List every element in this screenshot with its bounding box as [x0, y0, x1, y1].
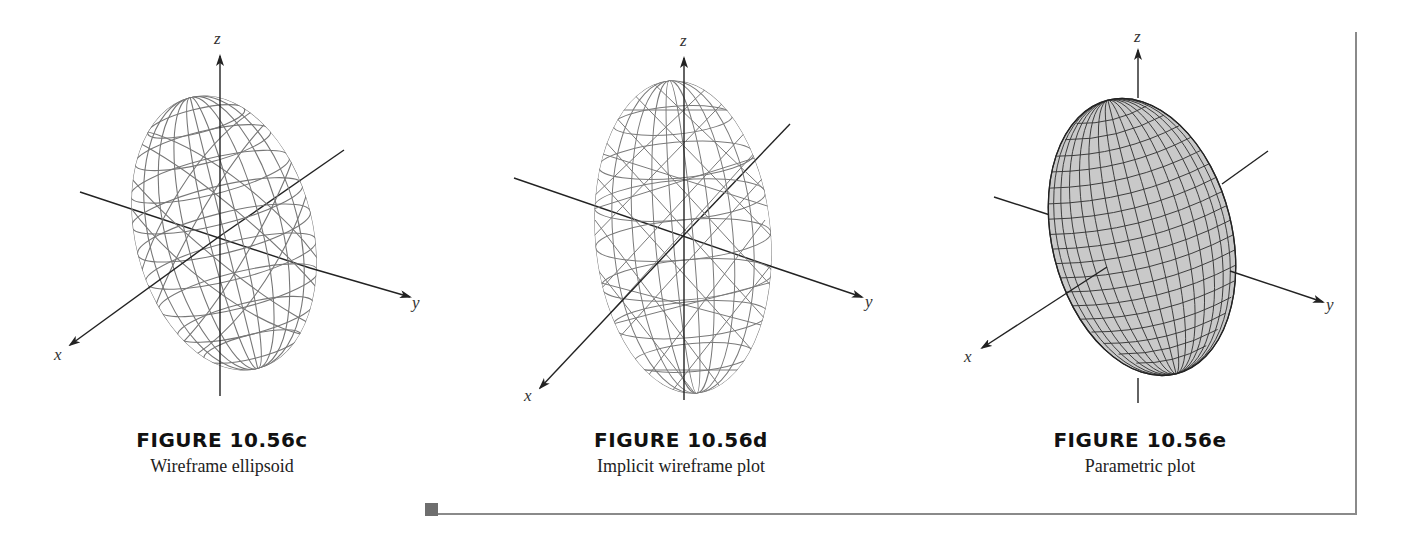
figure-c-number: FIGURE 10.56c	[72, 428, 372, 452]
figure-e-caption: FIGURE 10.56e Parametric plot	[990, 428, 1290, 477]
end-of-example-marker	[425, 503, 438, 516]
figure-c-plot: z y x	[53, 29, 420, 396]
figure-e-plot: z y x	[963, 27, 1334, 403]
figure-d-description: Implicit wireframe plot	[531, 456, 831, 477]
figure-c-caption: FIGURE 10.56c Wireframe ellipsoid	[72, 428, 372, 477]
figure-d-number: FIGURE 10.56d	[531, 428, 831, 452]
x-axis-label: x	[963, 347, 972, 366]
z-axis-label: z	[1133, 27, 1141, 46]
y-axis-label: y	[1324, 295, 1334, 314]
figure-e-number: FIGURE 10.56e	[990, 428, 1290, 452]
figure-c-description: Wireframe ellipsoid	[72, 456, 372, 477]
example-frame-right-rule	[1355, 32, 1357, 515]
figure-d-plot: z y x	[514, 31, 873, 405]
y-axis-label: y	[863, 292, 873, 311]
y-axis-label: y	[410, 293, 420, 312]
x-axis-label: x	[523, 386, 532, 405]
z-axis-label: z	[679, 31, 687, 50]
figure-d-caption: FIGURE 10.56d Implicit wireframe plot	[531, 428, 831, 477]
z-axis-label: z	[213, 29, 221, 48]
example-frame-bottom-rule	[436, 513, 1357, 515]
x-axis-label: x	[53, 345, 62, 364]
figure-e-description: Parametric plot	[990, 456, 1290, 477]
